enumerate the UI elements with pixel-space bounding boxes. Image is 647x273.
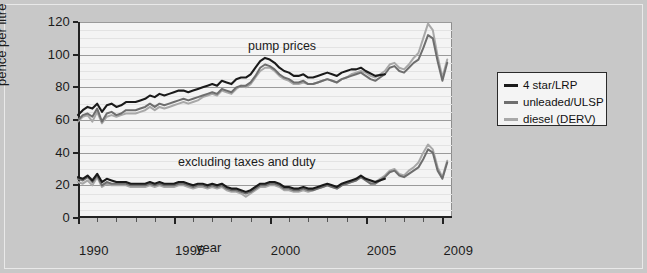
- y-tick-label-40: 40: [30, 146, 70, 159]
- legend-swatch-icon: [504, 118, 518, 121]
- x-tick-label-2005: 2005: [367, 244, 397, 257]
- x-tick-mark-2006: [385, 218, 386, 222]
- x-tick-mark-1994: [155, 218, 156, 222]
- y-axis-label: pence per litre: [0, 4, 9, 86]
- annotation-pump-prices: pump prices: [248, 39, 316, 53]
- legend-swatch-icon: [504, 101, 518, 104]
- x-tick-mark-2005: [366, 218, 368, 224]
- x-tick-mark-1996: [193, 218, 194, 222]
- x-tick-label-1990: 1990: [79, 244, 109, 257]
- x-tick-mark-1997: [212, 218, 213, 222]
- x-tick-mark-1998: [231, 218, 232, 222]
- y-tick-label-0: 0: [30, 211, 70, 224]
- legend-item-diesel-derv-[interactable]: diesel (DERV): [504, 114, 596, 126]
- x-tick-mark-1992: [116, 218, 117, 222]
- y-tick-label-120: 120: [30, 15, 70, 28]
- legend-item-4-star-lrp[interactable]: 4 star/LRP: [504, 80, 577, 92]
- x-tick-mark-2003: [327, 218, 328, 222]
- series-line-4-star-lrp-pump-prices: [78, 58, 385, 115]
- y-tick-mark-80: [73, 86, 78, 88]
- x-tick-mark-2008: [423, 218, 424, 222]
- y-tick-mark-20: [73, 184, 78, 186]
- y-tick-mark-40: [73, 152, 78, 154]
- y-tick-label-100: 100: [30, 48, 70, 61]
- x-tick-mark-1999: [251, 218, 252, 222]
- legend-item-unleaded-ulsp[interactable]: unleaded/ULSP: [504, 97, 604, 109]
- legend-swatch-icon: [504, 84, 518, 87]
- x-tick-mark-2007: [404, 218, 405, 222]
- y-tick-label-60: 60: [30, 113, 70, 126]
- x-tick-mark-2009: [442, 218, 444, 224]
- y-tick-mark-100: [73, 54, 78, 56]
- legend: 4 star/LRPunleaded/ULSPdiesel (DERV): [497, 72, 607, 126]
- y-tick-mark-120: [73, 21, 78, 23]
- plot-container: 120100806040200 19901995200020052009 pum…: [78, 22, 452, 218]
- y-tick-label-20: 20: [30, 178, 70, 191]
- chart-figure: 120100806040200 19901995200020052009 pum…: [0, 0, 647, 273]
- x-tick-mark-2002: [308, 218, 309, 222]
- annotation-excluding-taxes: excluding taxes and duty: [178, 155, 316, 169]
- x-tick-mark-1991: [97, 218, 98, 222]
- x-tick-mark-2001: [289, 218, 290, 222]
- y-tick-label-80: 80: [30, 80, 70, 93]
- legend-label: unleaded/ULSP: [523, 97, 604, 109]
- x-tick-mark-1993: [136, 218, 137, 222]
- legend-label: 4 star/LRP: [523, 80, 577, 92]
- x-tick-mark-2004: [347, 218, 348, 222]
- series-line-4-star-lrp-excluding-taxes-and-duty: [78, 174, 385, 192]
- x-tick-label-2000: 2000: [271, 244, 301, 257]
- x-axis-label: year: [196, 240, 221, 255]
- y-tick-mark-60: [73, 119, 78, 121]
- legend-label: diesel (DERV): [523, 114, 596, 126]
- x-tick-mark-1995: [174, 218, 176, 224]
- x-tick-mark-1990: [78, 218, 80, 224]
- x-tick-mark-2000: [270, 218, 272, 224]
- x-tick-label-2009: 2009: [443, 244, 473, 257]
